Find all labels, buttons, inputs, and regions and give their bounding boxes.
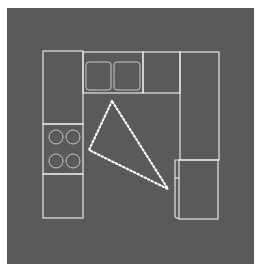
kitchen-diagram bbox=[0, 0, 263, 268]
background-panel bbox=[7, 8, 254, 264]
